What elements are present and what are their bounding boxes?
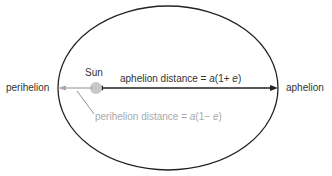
orbit-diagram [0,0,332,176]
perihelion-distance-suffix: ) [218,111,221,122]
perihelion-arrowhead-icon [58,86,66,91]
perihelion-distance-mid: (1− [195,111,213,122]
aphelion-arrowhead-icon [270,85,278,91]
aphelion-distance-text: aphelion distance = [120,73,209,84]
perihelion-distance-label: perihelion distance = a(1− e) [95,111,222,123]
sun-label: Sun [85,67,103,79]
perihelion-distance-text: perihelion distance = [95,111,190,122]
aphelion-label: aphelion [286,82,324,94]
aphelion-distance-suffix: ) [238,73,241,84]
perihelion-label: perihelion [6,82,49,94]
perihelion-leader-line [77,91,94,114]
aphelion-distance-label: aphelion distance = a(1+ e) [120,73,241,85]
aphelion-distance-mid: (1+ [215,73,233,84]
